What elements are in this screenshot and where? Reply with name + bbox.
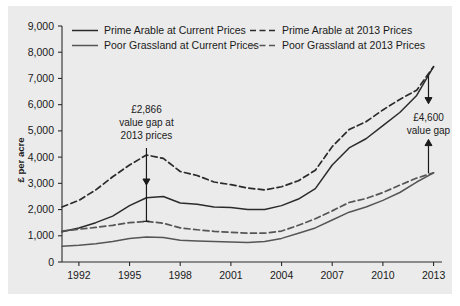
legend-label: Prime Arable at Current Prices [104, 24, 246, 36]
y-tick-label: 0 [48, 256, 54, 268]
annotation-right-gap: £4,600value gap [407, 76, 451, 174]
x-tick-label: 2013 [422, 269, 446, 281]
x-tick-label: 2001 [219, 269, 243, 281]
annotation-arrowhead-down [425, 98, 432, 104]
legend-entry-4: Poor Grassland at 2013 Prices [250, 39, 425, 51]
y-tick-label: 3,000 [28, 177, 54, 189]
x-tick-label: 2010 [371, 269, 395, 281]
y-tick-label: 8,000 [28, 46, 54, 58]
y-tick-label: 7,000 [28, 72, 54, 84]
annotation-text-line: £2,866 [131, 104, 162, 115]
y-axis-ticks: 01,0002,0003,0004,0005,0006,0007,0008,00… [28, 20, 62, 268]
x-tick-label: 1995 [118, 269, 142, 281]
legend-entry-3: Prime Arable at 2013 Prices [250, 24, 412, 36]
y-tick-label: 6,000 [28, 98, 54, 110]
chart-figure: 01,0002,0003,0004,0005,0006,0007,0008,00… [0, 0, 460, 306]
annotation-text-line: value gap at [119, 117, 174, 128]
x-tick-label: 2007 [321, 269, 345, 281]
axes-group [62, 26, 442, 262]
data-series-group [62, 67, 434, 247]
y-tick-label: 4,000 [28, 151, 54, 163]
chart-legend: Prime Arable at Current PricesPoor Grass… [72, 24, 425, 51]
y-tick-label: 5,000 [28, 124, 54, 136]
annotation-text-line: value gap [407, 125, 451, 136]
x-tick-label: 1998 [169, 269, 193, 281]
x-axis-ticks: 19921995199820012004200720102013 [67, 262, 445, 281]
annotation-text-line: 2013 prices [121, 130, 173, 141]
annotations-group: £2,866value gap at2013 prices£4,600value… [119, 76, 450, 222]
series-line-1 [62, 67, 434, 232]
annotation-text-line: £4,600 [413, 112, 444, 123]
annotation-left-gap: £2,866value gap at2013 prices [119, 104, 174, 221]
annotation-arrowhead-down [143, 179, 150, 185]
series-line-3 [62, 67, 434, 207]
y-tick-label: 2,000 [28, 203, 54, 215]
legend-entry-2: Poor Grassland at Current Prices [72, 39, 259, 51]
x-tick-label: 1992 [67, 269, 91, 281]
y-tick-label: 1,000 [28, 229, 54, 241]
y-tick-label: 9,000 [28, 20, 54, 32]
legend-label: Poor Grassland at Current Prices [104, 39, 259, 51]
legend-label: Prime Arable at 2013 Prices [282, 24, 412, 36]
y-axis-title: £ per acre [15, 138, 26, 183]
x-tick-label: 2004 [270, 269, 294, 281]
legend-entry-1: Prime Arable at Current Prices [72, 24, 246, 36]
legend-label: Poor Grassland at 2013 Prices [282, 39, 425, 51]
line-chart: 01,0002,0003,0004,0005,0006,0007,0008,00… [0, 0, 460, 306]
annotation-arrowhead-up [425, 140, 432, 146]
